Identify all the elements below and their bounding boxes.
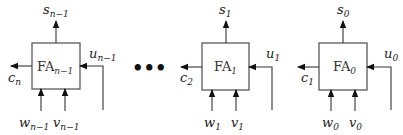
sum-output-label: s1 xyxy=(219,2,231,19)
carry-input-label: u1 xyxy=(266,46,280,63)
input-v-label: vn−1 xyxy=(53,115,79,132)
sum-output-label: sn−1 xyxy=(43,2,69,19)
carry-input-arrow xyxy=(249,67,272,110)
sum-output-label: s0 xyxy=(337,2,350,19)
carry-input-label: un−1 xyxy=(89,46,116,63)
carry-input-arrow xyxy=(367,67,391,110)
carry-output-label: c2 xyxy=(180,70,193,87)
full-adder-1: FA1 s1 c2 u1 w1 v1 xyxy=(180,2,280,132)
input-w-label: w1 xyxy=(204,115,221,132)
carry-output-label: cn xyxy=(8,70,21,87)
full-adder-n-1: FAn−1 sn−1 cn un−1 wn−1 vn−1 xyxy=(8,2,116,132)
full-adder-0: FA0 s0 c1 u0 w0 v0 xyxy=(298,2,398,132)
input-v-label: v1 xyxy=(231,115,244,132)
input-w-label: w0 xyxy=(322,115,339,132)
input-v-label: v0 xyxy=(349,115,362,132)
adder-diagram: FAn−1 sn−1 cn un−1 wn−1 vn−1 ••• FA1 s1 … xyxy=(0,0,403,135)
carry-input-label: u0 xyxy=(384,46,398,63)
ellipsis: ••• xyxy=(132,57,167,78)
carry-input-arrow xyxy=(80,66,103,110)
input-w-label: wn−1 xyxy=(19,115,49,132)
carry-output-label: c1 xyxy=(301,70,314,87)
